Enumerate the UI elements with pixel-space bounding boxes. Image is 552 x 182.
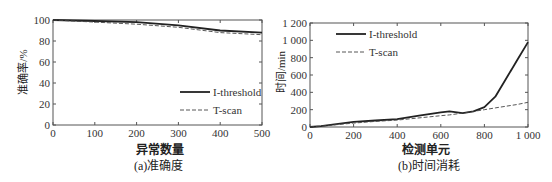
time-chart-legend-label: I-threshold: [369, 28, 418, 40]
accuracy-chart-ytick-label: 100: [34, 14, 51, 26]
accuracy-chart-panel: 0100200300400500020406080100I-thresholdT…: [0, 0, 276, 182]
time-chart-xtick-label: 0: [307, 129, 313, 141]
accuracy-chart-xtick-label: 500: [254, 127, 271, 139]
time-chart-plot-frame: [310, 23, 528, 127]
accuracy-chart-ytick-label: 20: [39, 98, 51, 110]
time-chart-ytick-label: 200: [291, 104, 308, 116]
accuracy-chart-xtick-label: 200: [128, 127, 145, 139]
time-chart-ytick-label: 400: [291, 86, 308, 98]
time-chart-panel: 02004006008001 00002004006008001 0001 20…: [276, 0, 552, 182]
accuracy-chart-caption: (a)准确度: [134, 156, 183, 174]
accuracy-chart-legend-label: I-threshold: [213, 86, 262, 98]
time-chart-xtick-label: 200: [345, 129, 362, 141]
time-chart-caption: (b)时间消耗: [398, 156, 460, 174]
accuracy-chart-xtick-label: 400: [212, 127, 229, 139]
time-chart-series-i-threshold: [310, 42, 528, 127]
accuracy-chart-series-t-scan: [53, 20, 262, 35]
accuracy-chart-ylabel: 准确率/%: [14, 42, 30, 102]
accuracy-chart-xtick-label: 100: [87, 127, 104, 139]
accuracy-chart-legend-label: T-scan: [213, 104, 242, 116]
time-chart-xtick-label: 800: [476, 129, 493, 141]
time-chart-ytick-label: 600: [291, 69, 308, 81]
time-chart-xtick-label: 1 000: [516, 129, 541, 141]
time-chart-ytick-label: 1 200: [282, 17, 307, 29]
accuracy-chart-xtick-label: 300: [170, 127, 187, 139]
time-chart-ytick-label: 800: [291, 52, 308, 64]
accuracy-chart-ytick-label: 0: [45, 119, 51, 131]
accuracy-chart-ytick-label: 40: [39, 77, 51, 89]
accuracy-chart-ytick-label: 80: [39, 35, 51, 47]
time-chart-ylabel: 时间/min: [272, 42, 288, 102]
time-chart-legend-label: T-scan: [369, 46, 398, 58]
time-chart-ytick-label: 0: [302, 121, 308, 133]
accuracy-chart-ytick-label: 60: [39, 56, 51, 68]
accuracy-chart-xtick-label: 0: [50, 127, 56, 139]
